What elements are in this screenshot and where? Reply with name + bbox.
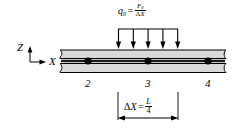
- load-fraction: F0 ΔX: [135, 3, 146, 19]
- load-symbol-subscript: 0: [123, 10, 126, 17]
- beam-lower-flange: [60, 64, 226, 73]
- load-arrow-4: [160, 29, 165, 49]
- z-axis-label: Z: [17, 42, 23, 53]
- node-label-2: 2: [85, 78, 91, 89]
- load-equals-sign: =: [126, 5, 135, 16]
- load-arrow-2: [131, 29, 136, 49]
- dim-arrowhead-right: [171, 116, 179, 121]
- load-arrow-5: [175, 29, 180, 49]
- load-fraction-numerator: F0: [135, 3, 146, 10]
- node-label-4: 4: [205, 78, 211, 89]
- load-arrow-3: [146, 29, 151, 49]
- dimension-label: ΔX= L 4: [124, 99, 152, 117]
- node-label-3: 3: [145, 78, 151, 89]
- z-axis-arrowhead: [28, 46, 33, 53]
- dim-fraction-numerator: L: [145, 98, 151, 106]
- node-dot-2: [84, 57, 91, 64]
- node-dot-4: [204, 57, 211, 64]
- node-dot-3: [144, 57, 151, 64]
- beam-upper-flange: [60, 50, 226, 59]
- x-axis-label: X: [49, 56, 56, 67]
- load-intensity-formula: q0= F0 ΔX: [118, 4, 146, 20]
- coordinate-axes: [28, 46, 46, 64]
- beam-load-diagram: q0= F0 ΔX Z X 2 3 4 ΔX= L 4: [0, 0, 245, 128]
- load-fraction-denominator: ΔX: [135, 10, 146, 18]
- dim-equals-sign: =: [137, 101, 146, 112]
- x-axis-arrowhead: [40, 60, 47, 65]
- distributed-load-arrows: [116, 29, 180, 49]
- dim-fraction: L 4: [145, 98, 151, 116]
- dim-fraction-denominator: 4: [145, 106, 151, 115]
- load-arrow-1: [116, 29, 121, 49]
- dim-variable: X: [130, 101, 136, 112]
